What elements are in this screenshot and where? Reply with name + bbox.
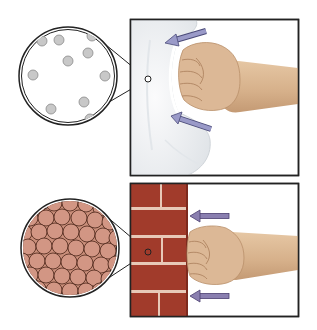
- pillow-magnifier: [19, 27, 117, 125]
- magnifier-focus-point: [145, 76, 151, 82]
- brick-wall: [131, 184, 188, 316]
- brick-magnifier: [14, 195, 125, 299]
- magnifier-focus-point: [145, 249, 151, 255]
- brick-particles: [14, 195, 125, 299]
- pillow-panel: [19, 20, 299, 176]
- brick-panel: [14, 184, 299, 317]
- diagram-canvas: [0, 0, 317, 330]
